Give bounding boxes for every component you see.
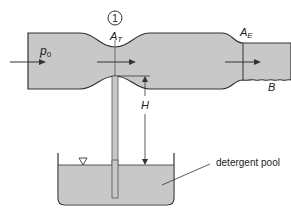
- venturi-pipe: [28, 33, 291, 89]
- pool-label: detergent pool: [216, 157, 280, 168]
- height-label: H: [141, 99, 149, 111]
- exit-area-label: AE: [239, 26, 253, 40]
- suction-tube-submerged: [112, 160, 118, 198]
- throat-area-label: AT: [109, 30, 123, 44]
- station-number-label: 1: [112, 13, 118, 24]
- venturi-diagram: 1 p0 AT AE B H detergent pool: [0, 0, 291, 211]
- free-surface-icon: [79, 158, 87, 165]
- exit-point-label: B: [268, 81, 275, 93]
